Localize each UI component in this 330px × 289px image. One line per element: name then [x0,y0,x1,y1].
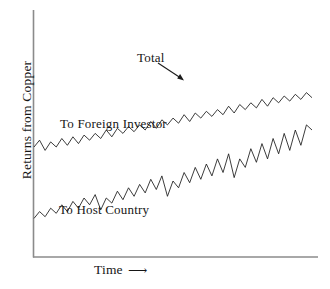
x-axis-arrow-icon: ⟶ [128,262,148,279]
chart-figure: Returns from Copper Time ⟶ Total To Fore… [0,0,330,289]
y-axis-label: Returns from Copper [19,45,35,195]
x-axis-label: Time [94,262,123,278]
foreign-investor-annotation-label: To Foreign Investor [60,116,167,132]
chart-plot-area [0,0,330,289]
total-annotation-label: Total [137,50,165,66]
host-country-annotation-label: To Host Country [59,202,149,218]
